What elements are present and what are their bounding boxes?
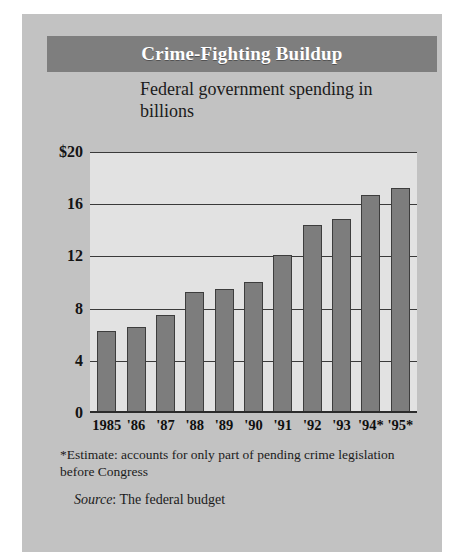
y-axis-tick-label: 16 <box>67 195 83 213</box>
bar-slot <box>356 152 385 412</box>
bar-slot <box>92 152 121 412</box>
bar-slot <box>180 152 209 412</box>
y-axis-tick-label: 0 <box>75 404 83 422</box>
plot-area: 0481216$20 <box>90 152 417 413</box>
bar <box>185 292 204 412</box>
y-axis-tick-label: 8 <box>75 300 83 318</box>
x-axis-tick-label: 1985 <box>92 417 121 434</box>
bar <box>127 327 146 412</box>
bar-slot <box>386 152 415 412</box>
x-axis-labels: 1985'86'87'88'89'90'91'92'93'94*'95* <box>90 417 417 434</box>
bar <box>273 255 292 412</box>
x-axis-tick-label: '87 <box>151 417 180 434</box>
y-axis-tick-label: $20 <box>59 143 83 161</box>
chart-card: Crime-Fighting Buildup Federal governmen… <box>22 14 442 552</box>
bar <box>97 331 116 412</box>
bar-slot <box>151 152 180 412</box>
bar <box>215 289 234 412</box>
source-value: : The federal budget <box>112 492 225 507</box>
y-axis-tick-label: 12 <box>67 247 83 265</box>
x-axis-tick-label: '94* <box>356 417 385 434</box>
chart-subtitle: Federal government spending in billions <box>140 78 430 122</box>
bar-slot <box>209 152 238 412</box>
chart-title: Crime-Fighting Buildup <box>141 43 342 65</box>
bar <box>391 188 410 412</box>
bar-slot <box>327 152 356 412</box>
bar <box>244 282 263 413</box>
bar-slot <box>239 152 268 412</box>
x-axis-line <box>90 411 417 413</box>
bar <box>303 225 322 412</box>
footnote-estimate: *Estimate: accounts for only part of pen… <box>60 446 410 480</box>
bar <box>156 315 175 412</box>
bar <box>332 219 351 412</box>
bar <box>361 195 380 412</box>
source-line: Source: The federal budget <box>74 492 404 508</box>
bar-series <box>90 152 417 412</box>
y-axis-tick-label: 4 <box>75 352 83 370</box>
x-axis-tick-label: '88 <box>180 417 209 434</box>
x-axis-tick-label: '90 <box>239 417 268 434</box>
x-axis-tick-label: '89 <box>209 417 238 434</box>
chart-plot-region: 0481216$20 1985'86'87'88'89'90'91'92'93'… <box>90 138 417 414</box>
bar-slot <box>268 152 297 412</box>
bar-slot <box>298 152 327 412</box>
bar-slot <box>121 152 150 412</box>
x-axis-tick-label: '92 <box>298 417 327 434</box>
x-axis-tick-label: '93 <box>327 417 356 434</box>
x-axis-tick-label: '91 <box>268 417 297 434</box>
chart-title-band: Crime-Fighting Buildup <box>47 36 437 72</box>
x-axis-tick-label: '86 <box>121 417 150 434</box>
source-label: Source <box>74 492 112 507</box>
x-axis-tick-label: '95* <box>386 417 415 434</box>
